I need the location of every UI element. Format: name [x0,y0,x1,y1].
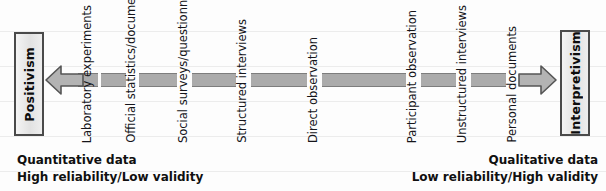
endpoint-positivism-label: Positivism [22,47,37,122]
continuum-bar-segment [322,73,406,87]
descriptor-qualitative-line1: Qualitative data [412,152,598,169]
descriptor-quantitative-line1: Quantitative data [17,152,203,169]
continuum-bar-segment [251,73,307,87]
method-label-direct-observation: Direct observation [308,37,320,143]
method-label-unstructured-interviews: Unstructured interviews [457,5,469,143]
method-label-structured-interviews: Structured interviews [237,19,249,143]
descriptor-quantitative-line2: High reliability/Low validity [17,169,203,186]
endpoint-positivism: Positivism [14,32,44,136]
endpoint-interpretivism: Interpretivism [560,30,590,136]
arrow-right-icon [518,62,558,98]
method-label-laboratory-experiments: Laboratory experiments [82,5,94,143]
research-methods-continuum-diagram: Positivism Interpretivism Laboratory exp… [0,0,606,191]
descriptor-qualitative: Qualitative data Low reliability/High va… [412,152,598,185]
method-label-social-surveys-questionnaires: Social surveys/questionnaires [178,0,190,143]
endpoint-interpretivism-label: Interpretivism [568,31,583,135]
descriptor-qualitative-line2: Low reliability/High validity [412,169,598,186]
method-label-participant-observation: Participant observation [407,10,419,143]
method-label-personal-documents: Personal documents [507,26,519,143]
continuum-bar-segment [421,73,456,87]
arrow-left-icon [44,62,84,98]
continuum-bar-segment [192,73,236,87]
continuum-bar-segment [139,73,177,87]
continuum-bar-segment [101,73,126,87]
method-label-official-statistics-documents: Official statistics/documents [126,0,138,143]
continuum-bar-segment [471,73,506,87]
descriptor-quantitative: Quantitative data High reliability/Low v… [17,152,203,185]
